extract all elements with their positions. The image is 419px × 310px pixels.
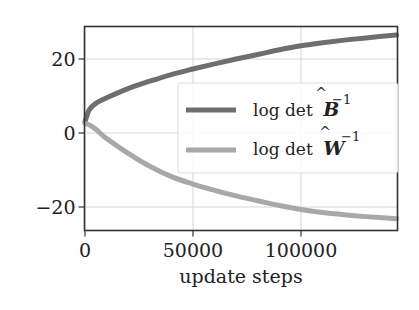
- x-tick-label: 0: [79, 239, 91, 261]
- x-axis-ticks: 050000100000: [79, 231, 337, 261]
- y-tick-label: 20: [51, 48, 75, 70]
- legend-superscript-b: −1: [332, 92, 351, 107]
- hat-icon: ^: [319, 124, 331, 140]
- legend-box: [178, 83, 398, 173]
- x-axis-label: update steps: [179, 265, 302, 287]
- legend-label-b-inverse: log det B: [253, 98, 339, 120]
- legend-label-w-inverse: log det W: [253, 137, 346, 159]
- legend: log det B ^ −1 log det W ^ −1: [178, 83, 398, 173]
- y-axis-ticks: 200−20: [35, 48, 84, 218]
- x-tick-label: 100000: [265, 239, 338, 261]
- hat-icon: ^: [315, 85, 327, 101]
- line-chart: 200−20 050000100000 update steps log det…: [0, 0, 419, 310]
- x-tick-label: 50000: [163, 239, 223, 261]
- y-tick-label: 0: [63, 122, 75, 144]
- y-tick-label: −20: [35, 196, 75, 218]
- legend-superscript-w: −1: [341, 129, 360, 144]
